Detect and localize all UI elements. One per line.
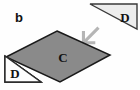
triangle-lower-left-label: D — [10, 66, 19, 81]
figure-canvas: D D C b — [0, 0, 140, 90]
figure-panel-b: D D C b — [0, 0, 140, 90]
parallelogram-label: C — [58, 50, 67, 65]
panel-label: b — [15, 10, 23, 25]
triangle-upper-right-label: D — [120, 10, 129, 25]
